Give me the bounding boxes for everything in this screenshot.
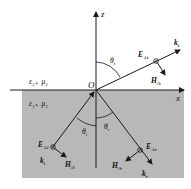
h-vector-transmitted (157, 62, 165, 75)
theta-transmitted-label: θt (110, 56, 116, 66)
k-transmitted-label: kt (174, 38, 180, 48)
x-axis-label: x (175, 93, 180, 103)
z-axis-label: z (100, 9, 105, 19)
angle-arc-transmitted (96, 62, 120, 77)
h-transmitted-label: H//t (150, 76, 161, 86)
e-transmitted-label: E⊥t (137, 50, 149, 60)
em-interface-diagram: z x O ε₂、μ₂ ε₁、μ₁ θt θi θr E⊥i ki H//i E… (0, 0, 191, 189)
origin-label: O (88, 80, 95, 90)
lower-medium-label: ε₁、μ₁ (29, 99, 48, 108)
upper-medium-label: ε₂、μ₂ (29, 77, 48, 86)
